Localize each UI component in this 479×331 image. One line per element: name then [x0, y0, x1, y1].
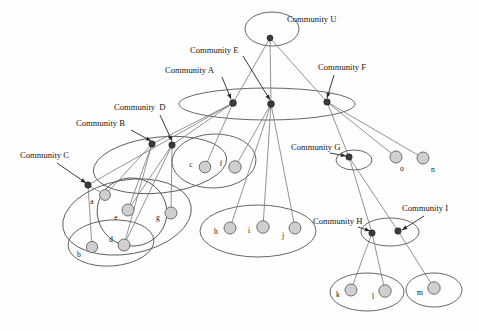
- leaf-node-n[interactable]: [417, 152, 429, 164]
- community-label-U: Community U: [287, 14, 337, 24]
- leader-E-arrowhead: [265, 94, 270, 100]
- leaf-node-j[interactable]: [289, 222, 301, 234]
- leaf-label-a: a: [90, 197, 94, 206]
- edge-B-e: [128, 144, 152, 210]
- leaf-node-d[interactable]: [118, 239, 130, 251]
- community-node-D[interactable]: [169, 142, 175, 148]
- edge-C-b: [88, 185, 92, 247]
- community-label-G: Community G: [291, 142, 340, 152]
- community-node-G[interactable]: [346, 154, 352, 160]
- leaf-node-l[interactable]: [379, 285, 391, 297]
- leaf-label-c: c: [189, 160, 193, 169]
- ellipse-c-f: [171, 133, 257, 190]
- leader-C-arrowhead: [81, 178, 86, 183]
- leader-line-group: [57, 56, 424, 231]
- community-node-H[interactable]: [369, 230, 375, 236]
- ellipse-community-g: [336, 150, 372, 170]
- edge-E-j: [271, 104, 295, 228]
- figure-canvas: aegbdcfhijonklm Community UCommunity ECo…: [0, 0, 479, 331]
- edge-D-g: [171, 145, 172, 213]
- leaf-label-f: f: [220, 159, 223, 168]
- edge-U-E: [270, 38, 271, 104]
- edge-D-d: [124, 145, 172, 245]
- community-node-I[interactable]: [395, 228, 401, 234]
- leaf-label-b: b: [77, 250, 81, 259]
- leaf-node-a[interactable]: [100, 190, 111, 201]
- edge-D-e: [128, 145, 172, 210]
- leaf-label-o: o: [400, 164, 404, 173]
- edge-F-n: [327, 102, 423, 158]
- community-node-B[interactable]: [149, 141, 155, 147]
- leaf-node-e[interactable]: [122, 204, 134, 216]
- leader-H-arrowhead: [364, 227, 370, 231]
- leaf-node-o[interactable]: [390, 151, 402, 163]
- community-node-A[interactable]: [230, 100, 237, 107]
- community-label-I: Community I: [402, 203, 448, 213]
- community-label-F: Community F: [318, 62, 366, 72]
- community-label-H: Community H: [313, 216, 362, 226]
- community-label-C: Community C: [20, 150, 69, 160]
- leaf-label-l: l: [372, 292, 374, 301]
- leaf-label-j: j: [281, 231, 284, 240]
- leaf-node-k[interactable]: [345, 284, 357, 296]
- edge-group: [88, 38, 434, 291]
- community-node-E[interactable]: [268, 101, 275, 108]
- leader-B-arrowhead: [145, 137, 151, 141]
- edge-H-l: [372, 233, 385, 291]
- community-label-B: Community B: [76, 118, 125, 128]
- leaf-node-g[interactable]: [165, 207, 177, 219]
- leaf-node-i[interactable]: [257, 221, 269, 233]
- ellipse-k-l: [330, 273, 404, 311]
- leaf-label-k: k: [336, 290, 340, 299]
- leaf-label-e: e: [114, 213, 118, 222]
- community-label-A: Community A: [165, 65, 215, 75]
- edge-I-m: [398, 231, 434, 288]
- leaf-node-b[interactable]: [86, 241, 97, 252]
- edge-H-k: [351, 233, 372, 290]
- leaf-node-f[interactable]: [229, 161, 241, 173]
- leaf-label-g: g: [156, 213, 160, 222]
- leaf-node-c[interactable]: [199, 161, 211, 173]
- community-node-C[interactable]: [85, 182, 91, 188]
- leader-I-arrowhead: [402, 225, 408, 230]
- leaf-label-m: m: [417, 288, 423, 297]
- community-label-D: Community D: [114, 102, 166, 112]
- leader-A-arrowhead: [227, 93, 231, 99]
- edge-E-i: [263, 104, 271, 227]
- leaf-node-h[interactable]: [224, 222, 236, 234]
- community-label-E: Community E: [190, 45, 238, 55]
- community-node-U[interactable]: [267, 35, 273, 41]
- leaf-label-i: i: [248, 226, 250, 235]
- leaf-node-m[interactable]: [428, 282, 440, 294]
- community-node-F[interactable]: [324, 99, 330, 105]
- leader-G-arrowhead: [341, 153, 346, 157]
- leaf-label-n: n: [431, 165, 435, 174]
- leader-C: [57, 163, 86, 183]
- leaf-label-d: d: [109, 235, 113, 244]
- leaf-label-h: h: [214, 227, 218, 236]
- community-hierarchy-diagram: aegbdcfhijonklm Community UCommunity ECo…: [0, 0, 479, 331]
